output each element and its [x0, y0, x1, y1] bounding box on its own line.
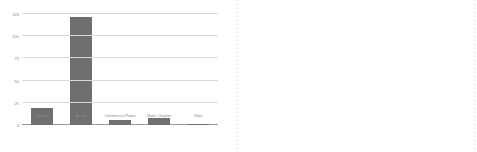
y-axis-tick-label: 100 [12, 34, 19, 39]
x-label-slot: Book Chapter [140, 113, 179, 118]
chart-panel-document-types: 0255075100125 ReviewArticleConference Pa… [0, 0, 238, 152]
y-axis-tick-label: 75 [15, 56, 19, 61]
gridline [22, 57, 218, 58]
y-axis-tick-label: 50 [15, 78, 19, 83]
bar-group-left [22, 14, 218, 125]
y-axis-tick-label: 125 [12, 12, 19, 17]
x-axis-tick-label: Article [75, 113, 86, 118]
bar-slot[interactable] [140, 14, 179, 125]
gridline [22, 35, 218, 36]
gridline [22, 80, 218, 81]
gridline [22, 124, 218, 125]
x-axis-tick-label: Review [35, 113, 48, 118]
plot-area-left: 0255075100125 [22, 14, 218, 125]
gridline [22, 13, 218, 14]
y-axis-tick-label: 0 [17, 123, 19, 128]
x-label-slot: Review [22, 113, 61, 118]
bar-slot[interactable] [61, 14, 100, 125]
x-axis-labels-left: ReviewArticleConference PaperBook Chapte… [22, 113, 218, 118]
x-axis-tick-label: Conference Paper [104, 113, 136, 118]
y-axis-tick-label: 25 [15, 100, 19, 105]
x-axis-tick-label: Note [194, 113, 202, 118]
x-label-slot: Conference Paper [100, 113, 139, 118]
x-label-slot: Article [61, 113, 100, 118]
bar-slot[interactable] [179, 14, 218, 125]
x-label-slot: Note [179, 113, 218, 118]
bar[interactable] [70, 17, 92, 125]
scan-edge-artifact-right [474, 0, 476, 152]
bar-slot[interactable] [100, 14, 139, 125]
x-axis-tick-label: Book Chapter [147, 113, 171, 118]
gridline [22, 102, 218, 103]
figure-container: 0255075100125 ReviewArticleConference Pa… [0, 0, 477, 152]
bar-slot[interactable] [22, 14, 61, 125]
chart-panel-documents-by-year: 0510152025 20062007200820092010201120122… [238, 0, 477, 152]
